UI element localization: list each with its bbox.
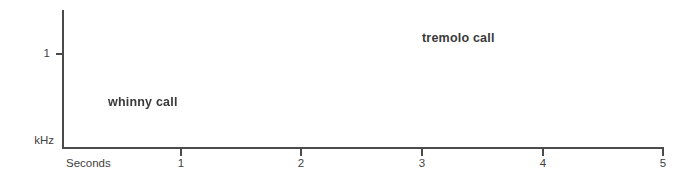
x-tick-1 xyxy=(180,149,182,156)
tremolo-call-label: tremolo call xyxy=(422,31,495,45)
tremolo-call-spectrogram xyxy=(310,80,670,128)
x-tick-5 xyxy=(662,149,664,156)
x-tick-3 xyxy=(421,149,423,156)
x-tick-label-1: 1 xyxy=(166,156,196,170)
x-tick-label-3: 3 xyxy=(407,156,437,170)
x-axis-title: Seconds xyxy=(66,156,111,170)
whinny-call-label: whinny call xyxy=(108,95,178,109)
x-tick-label-4: 4 xyxy=(528,156,558,170)
y-tick-label-1: 1 xyxy=(28,46,50,60)
whinny-call-spectrogram xyxy=(82,8,262,108)
x-axis-line xyxy=(62,147,664,149)
y-axis-title: kHz xyxy=(28,133,54,147)
y-axis-line xyxy=(62,10,64,149)
spectrogram-figure: 1 kHz 1 2 3 4 5 Seconds whinny call trem… xyxy=(0,0,700,182)
x-tick-label-2: 2 xyxy=(286,156,316,170)
y-tick-1 xyxy=(56,53,64,55)
x-tick-label-5: 5 xyxy=(648,156,678,170)
x-tick-4 xyxy=(542,149,544,156)
x-tick-2 xyxy=(300,149,302,156)
